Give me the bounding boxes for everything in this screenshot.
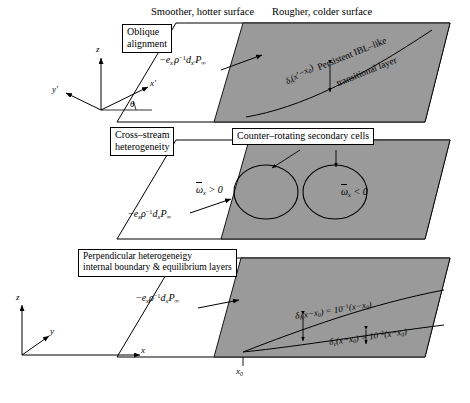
- axis-label-y-prime: y′: [52, 84, 58, 94]
- axis-label-z-prime: z: [96, 44, 100, 54]
- panel-3-origin-tick-label: x0: [236, 366, 243, 377]
- panel-3-label-line1: Perpendicular heterogeneigy: [83, 251, 232, 262]
- axis-label-y: y: [50, 326, 54, 336]
- panel-2-label: Cross–stream heterogeneity: [110, 127, 174, 156]
- panel-1-forcing-term: −ex′ρ−1dx′P∞: [160, 54, 206, 66]
- axis-label-x-prime: x′: [150, 78, 156, 88]
- panel-3-label: Perpendicular heterogeneigy internal bou…: [78, 249, 237, 277]
- panel-2-forcing-term: −exρ−1dxP∞: [128, 208, 171, 220]
- panel-3-label-line2: internal boundary & equilibrium layers: [83, 262, 232, 273]
- panel-2-vorticity-left: ωx > 0: [196, 184, 223, 196]
- axis-label-x: x: [141, 345, 145, 355]
- panel-2-cells-label: Counter–rotating secondary cells: [232, 128, 374, 145]
- panel-2-label-line2: heterogeneity: [115, 141, 169, 153]
- panel-3-forcing-term: −exρ−1dxP∞: [136, 292, 179, 304]
- angle-theta-label: θ: [130, 99, 134, 109]
- panel-1-label-line2: alignment: [127, 38, 167, 50]
- title-smoother-surface: Smoother, hotter surface: [151, 6, 254, 18]
- panel-2-vorticity-right: ωx < 0: [341, 186, 368, 198]
- figure-root: Smoother, hotter surface Rougher, colder…: [0, 0, 470, 403]
- panel-2-label-line1: Cross–stream: [115, 129, 169, 141]
- panel-1-label: Oblique alignment: [122, 24, 172, 53]
- title-rougher-surface: Rougher, colder surface: [272, 6, 372, 18]
- figure-canvas: [0, 0, 470, 403]
- axis-label-z: z: [16, 292, 20, 302]
- panel-1-label-line1: Oblique: [127, 26, 167, 38]
